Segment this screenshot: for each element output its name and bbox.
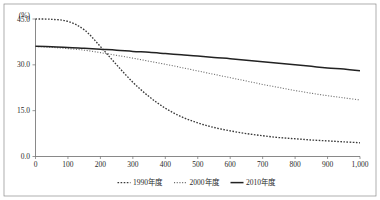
x-tick-label: 100	[62, 160, 74, 169]
x-tick-label: 1,000	[352, 160, 369, 169]
x-tick-label: 200	[95, 160, 107, 169]
legend-item-label: 2000年度	[190, 177, 220, 187]
x-tick-label: 0	[34, 160, 38, 169]
y-tick-label: 30.0	[17, 60, 30, 69]
chart-legend: 1990年度2000年度2010年度	[118, 177, 277, 187]
legend-item-label: 2010年度	[246, 177, 276, 187]
chart-figure: (%) 0.015.030.045.0 01002003004005006007…	[0, 0, 380, 200]
y-tick-label: 45.0	[17, 15, 30, 24]
x-tick-label: 300	[127, 160, 139, 169]
x-tick-label: 400	[160, 160, 172, 169]
x-tick-label: 600	[225, 160, 237, 169]
x-tick-label: 500	[192, 160, 204, 169]
legend-item-label: 1990年度	[133, 177, 163, 187]
x-tick-label: 700	[257, 160, 269, 169]
x-tick-label: 800	[289, 160, 301, 169]
y-tick-label: 0.0	[21, 152, 31, 161]
x-tick-label: 900	[322, 160, 334, 169]
line-chart: (%) 0.015.030.045.0 01002003004005006007…	[0, 0, 380, 200]
chart-background	[0, 0, 380, 200]
y-tick-label: 15.0	[17, 106, 30, 115]
